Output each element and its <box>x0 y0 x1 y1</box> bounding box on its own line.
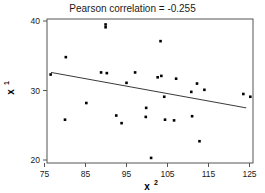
data-point <box>150 157 153 160</box>
data-point <box>164 118 167 121</box>
data-point <box>106 72 109 75</box>
data-point <box>125 82 128 85</box>
data-point <box>196 82 199 85</box>
data-point <box>160 75 163 78</box>
data-point <box>198 140 201 143</box>
data-point <box>191 115 194 118</box>
data-point <box>49 73 52 76</box>
data-point <box>242 93 245 96</box>
y-axis-ticks: 203040 <box>31 16 47 165</box>
x-tick-label: 115 <box>202 169 216 179</box>
plot-canvas: 758595105115125 203040 x 2 x 1 <box>0 0 265 193</box>
data-point <box>145 107 148 110</box>
x-tick-label: 85 <box>81 169 91 179</box>
data-point <box>104 26 107 29</box>
data-point <box>175 77 178 80</box>
y-tick-label: 40 <box>31 16 41 26</box>
data-point <box>156 76 159 79</box>
data-points <box>49 23 251 159</box>
data-point <box>85 102 88 105</box>
y-axis-title: x <box>5 89 16 95</box>
data-point <box>104 23 107 26</box>
x-axis-title: x <box>144 181 150 192</box>
y-tick-label: 20 <box>31 155 41 165</box>
x-axis-title-superscript: 2 <box>154 179 158 186</box>
x-tick-label: 95 <box>122 169 132 179</box>
data-point <box>100 71 103 74</box>
data-point <box>203 89 206 92</box>
data-point <box>173 119 176 122</box>
y-axis-title-superscript: 1 <box>3 81 10 85</box>
plot-frame <box>47 19 253 163</box>
data-point <box>159 40 162 43</box>
data-point <box>134 71 137 74</box>
x-tick-label: 75 <box>40 169 50 179</box>
regression-line <box>51 72 246 107</box>
x-axis-ticks: 758595105115125 <box>40 163 257 179</box>
scatter-plot-figure: Pearson correlation = -0.255 75859510511… <box>0 0 265 193</box>
data-point <box>64 118 67 121</box>
data-point <box>163 95 166 98</box>
data-point <box>115 114 118 117</box>
regression-line-segment <box>51 72 246 107</box>
data-point <box>120 122 123 125</box>
data-point <box>190 91 193 94</box>
y-tick-label: 30 <box>31 86 41 96</box>
data-point <box>144 116 147 119</box>
x-tick-label: 105 <box>160 169 174 179</box>
x-tick-label: 125 <box>242 169 256 179</box>
data-point <box>249 95 252 98</box>
data-point <box>65 56 68 59</box>
